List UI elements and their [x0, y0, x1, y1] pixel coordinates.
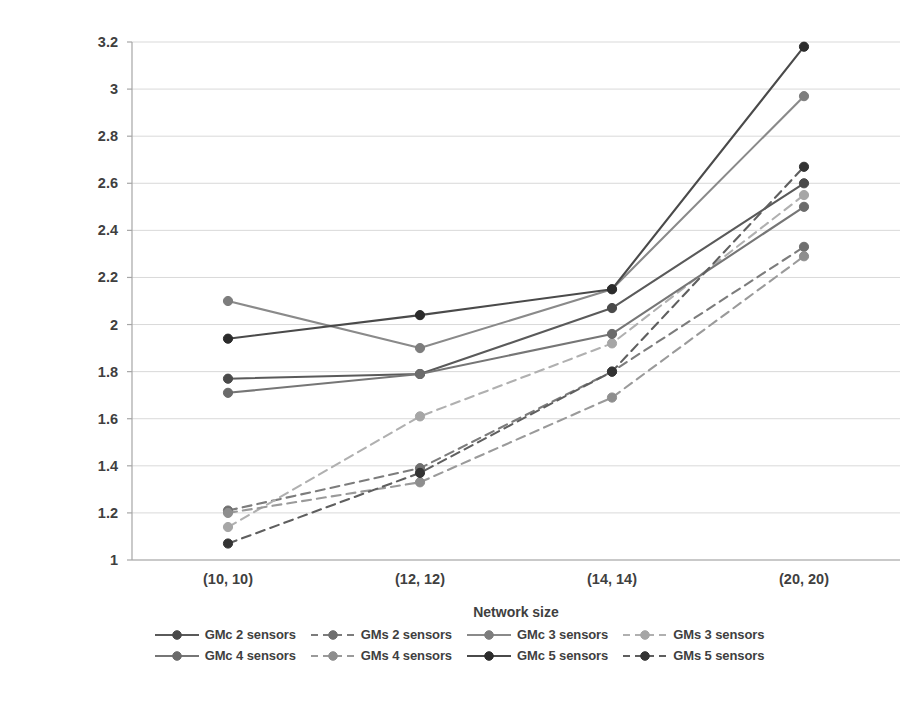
legend-item[interactable]: GMc 4 sensors	[154, 648, 296, 663]
legend-line-sample	[154, 628, 200, 642]
data-point-marker	[223, 374, 232, 383]
legend-item[interactable]: GMs 4 sensors	[310, 648, 452, 663]
x-axis-tick-label: (12, 12)	[395, 571, 445, 587]
legend-label: GMs 5 sensors	[673, 648, 764, 663]
data-point-marker	[607, 393, 616, 402]
legend-marker-icon	[329, 651, 338, 660]
x-axis-tick-label: (14, 14)	[587, 571, 637, 587]
y-axis-tick-label: 3.2	[98, 34, 118, 50]
data-point-marker	[223, 508, 232, 517]
data-point-marker	[223, 388, 232, 397]
y-axis-tick-label: 1	[110, 552, 118, 568]
data-point-marker	[799, 179, 808, 188]
legend-label: GMs 2 sensors	[361, 627, 452, 642]
data-point-marker	[607, 303, 616, 312]
series-gms-2-sensors	[223, 242, 808, 515]
data-point-marker	[415, 343, 424, 352]
legend-line-sample	[466, 649, 512, 663]
y-axis-tick-label: 1.4	[98, 458, 118, 474]
legend-row: GMc 2 sensorsGMs 2 sensorsGMc 3 sensorsG…	[154, 627, 765, 642]
data-point-marker	[223, 334, 232, 343]
legend-line-sample	[622, 649, 668, 663]
data-point-marker	[607, 285, 616, 294]
data-point-marker	[415, 311, 424, 320]
x-axis-title: Network size	[473, 604, 559, 620]
grid-lines	[132, 42, 900, 560]
legend-marker-icon	[172, 651, 181, 660]
legend-marker-icon	[485, 630, 494, 639]
y-axis-tick-label: 1.8	[98, 364, 118, 380]
data-point-marker	[799, 190, 808, 199]
y-axis-tick-label: 1.6	[98, 411, 118, 427]
data-point-marker	[799, 162, 808, 171]
data-point-marker	[799, 252, 808, 261]
data-point-marker	[223, 539, 232, 548]
data-point-marker	[223, 522, 232, 531]
data-point-marker	[799, 42, 808, 51]
series-line	[228, 183, 804, 378]
series-gmc-3-sensors	[223, 92, 808, 353]
legend-item[interactable]: GMs 3 sensors	[622, 627, 764, 642]
legend-label: GMc 5 sensors	[517, 648, 608, 663]
data-point-marker	[415, 478, 424, 487]
data-point-marker	[607, 329, 616, 338]
legend-row: GMc 4 sensorsGMs 4 sensorsGMc 5 sensorsG…	[154, 648, 765, 663]
legend-line-sample	[310, 649, 356, 663]
x-axis-title-text: Network size	[473, 604, 559, 620]
data-point-marker	[415, 468, 424, 477]
chart-container: 11.21.41.61.822.22.42.62.833.2 (10, 10)(…	[0, 0, 918, 712]
series-gmc-2-sensors	[223, 179, 808, 384]
series-gms-5-sensors	[223, 162, 808, 548]
data-point-marker	[415, 369, 424, 378]
legend-label: GMc 4 sensors	[205, 648, 296, 663]
series-line	[228, 47, 804, 339]
legend-item[interactable]: GMc 3 sensors	[466, 627, 608, 642]
legend-marker-icon	[641, 630, 650, 639]
data-point-marker	[607, 339, 616, 348]
legend-line-sample	[310, 628, 356, 642]
series-gms-3-sensors	[223, 190, 808, 531]
y-axis-tick-label: 2	[110, 317, 118, 333]
data-point-marker	[799, 202, 808, 211]
x-axis-tick-labels: (10, 10)(12, 12)(14, 14)(20, 20)	[203, 571, 829, 587]
legend-item[interactable]: GMc 2 sensors	[154, 627, 296, 642]
legend-item[interactable]: GMc 5 sensors	[466, 648, 608, 663]
legend-item[interactable]: GMs 2 sensors	[310, 627, 452, 642]
y-axis-tick-label: 2.4	[98, 222, 118, 238]
series-gmc-5-sensors	[223, 42, 808, 343]
series-line	[228, 195, 804, 527]
data-point-marker	[223, 296, 232, 305]
legend-label: GMc 2 sensors	[205, 627, 296, 642]
y-axis-tick-label: 2.6	[98, 175, 118, 191]
y-axis-tick-label: 2.8	[98, 128, 118, 144]
legend-item[interactable]: GMs 5 sensors	[622, 648, 764, 663]
y-axis-tick-label: 1.2	[98, 505, 118, 521]
series-line	[228, 167, 804, 544]
series-line	[228, 207, 804, 393]
legend-label: GMs 4 sensors	[361, 648, 452, 663]
y-axis-tick-label: 3	[110, 81, 118, 97]
legend-line-sample	[622, 628, 668, 642]
legend-marker-icon	[485, 651, 494, 660]
legend-label: GMs 3 sensors	[673, 627, 764, 642]
y-axis-tick-label: 2.2	[98, 269, 118, 285]
y-axis-line	[132, 42, 900, 560]
series-line	[228, 96, 804, 348]
data-point-marker	[799, 242, 808, 251]
line-chart-svg: 11.21.41.61.822.22.42.62.833.2 (10, 10)(…	[0, 0, 918, 712]
x-axis-tick-label: (10, 10)	[203, 571, 253, 587]
y-axis-tick-labels: 11.21.41.61.822.22.42.62.833.2	[98, 34, 132, 568]
chart-legend: GMc 2 sensorsGMs 2 sensorsGMc 3 sensorsG…	[0, 627, 918, 663]
series-line	[228, 247, 804, 511]
legend-line-sample	[154, 649, 200, 663]
legend-marker-icon	[329, 630, 338, 639]
plot-series	[223, 42, 808, 548]
legend-marker-icon	[172, 630, 181, 639]
data-point-marker	[415, 412, 424, 421]
x-axis-tick-label: (20, 20)	[779, 571, 829, 587]
legend-marker-icon	[641, 651, 650, 660]
data-point-marker	[799, 92, 808, 101]
legend-line-sample	[466, 628, 512, 642]
data-point-marker	[607, 367, 616, 376]
legend-label: GMc 3 sensors	[517, 627, 608, 642]
